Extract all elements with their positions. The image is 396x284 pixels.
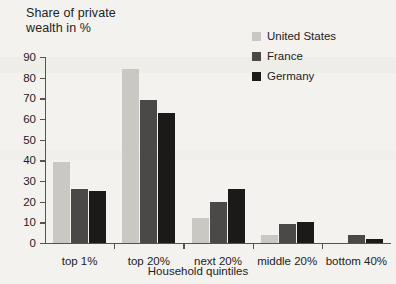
y-axis-tick: 50	[40, 140, 45, 141]
y-axis-tick-label: 20	[23, 196, 36, 208]
bar-united-states[interactable]	[53, 162, 70, 243]
bar-germany[interactable]	[89, 191, 106, 243]
y-axis-line	[45, 57, 46, 243]
y-axis-tick-label: 30	[23, 175, 36, 187]
bar-france[interactable]	[279, 224, 296, 243]
bar-united-states[interactable]	[192, 218, 209, 243]
bar-germany[interactable]	[158, 113, 175, 243]
bar-united-states[interactable]	[261, 235, 278, 243]
y-axis-tick: 20	[40, 202, 45, 203]
bar-france[interactable]	[348, 235, 365, 243]
y-axis-tick-label: 40	[23, 154, 36, 166]
bar-germany[interactable]	[228, 189, 245, 243]
legend-swatch-icon	[252, 32, 261, 41]
bar-france[interactable]	[210, 202, 227, 243]
bar-germany[interactable]	[366, 239, 383, 243]
legend-label: United States	[267, 30, 336, 42]
y-axis-tick-label: 80	[23, 72, 36, 84]
x-axis-label: bottom 40%	[326, 255, 387, 267]
x-axis-title: Household quintiles	[148, 265, 248, 277]
y-axis-tick-label: 10	[23, 216, 36, 228]
x-axis-line	[45, 243, 391, 244]
x-axis-tick	[253, 243, 254, 249]
y-axis-tick: 40	[40, 160, 45, 161]
y-axis-tick-label: 60	[23, 113, 36, 125]
y-axis-tick-label: 70	[23, 92, 36, 104]
bar-united-states[interactable]	[122, 69, 139, 243]
legend-item-united-states[interactable]: United States	[252, 30, 336, 42]
y-axis-tick: 0	[40, 243, 45, 244]
y-axis-tick: 70	[40, 98, 45, 99]
y-axis-tick: 90	[40, 57, 45, 58]
bar-france[interactable]	[140, 100, 157, 243]
x-axis-tick	[183, 243, 184, 249]
x-axis-tick	[114, 243, 115, 249]
y-axis-tick-label: 0	[30, 237, 36, 249]
y-axis-tick-label: 90	[23, 51, 36, 63]
y-axis-tick: 10	[40, 222, 45, 223]
bar-germany[interactable]	[297, 222, 314, 243]
x-axis-label: top 1%	[62, 255, 98, 267]
plot-area: 0102030405060708090top 1%top 20%next 20%…	[45, 57, 391, 243]
x-axis-label: middle 20%	[257, 255, 317, 267]
y-axis-tick: 30	[40, 181, 45, 182]
chart-title-line-1: Share of private	[26, 6, 176, 21]
bar-france[interactable]	[71, 189, 88, 243]
x-axis-tick	[322, 243, 323, 249]
chart-title: Share of private wealth in %	[26, 6, 176, 36]
y-axis-tick-label: 50	[23, 134, 36, 146]
chart-title-line-2: wealth in %	[26, 21, 176, 36]
y-axis-tick: 80	[40, 78, 45, 79]
bar-chart: Share of private wealth in % United Stat…	[0, 0, 396, 284]
y-axis-tick: 60	[40, 119, 45, 120]
